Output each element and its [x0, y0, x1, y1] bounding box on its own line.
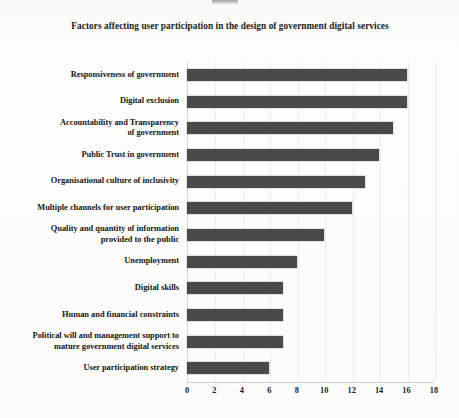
- bar-row: [187, 62, 434, 89]
- chart-title: Factors affecting user participation in …: [40, 20, 420, 32]
- y-axis-label: Unemployment: [0, 256, 179, 266]
- x-axis-tick-label: 10: [312, 386, 336, 395]
- x-axis-tick-label: 8: [285, 386, 309, 395]
- bar[interactable]: [187, 282, 283, 294]
- y-axis-label: Digital exclusion: [0, 96, 179, 106]
- bar-row: [187, 275, 434, 302]
- x-axis-tick-label: 14: [367, 386, 391, 395]
- y-axis-label: Accountability and Transparencyof govern…: [0, 118, 179, 139]
- y-axis-label: Public Trust in government: [0, 150, 179, 160]
- y-axis-label-line: Political will and management support to: [0, 331, 179, 341]
- bar[interactable]: [187, 122, 393, 134]
- bar[interactable]: [187, 202, 352, 214]
- bar[interactable]: [187, 96, 407, 108]
- bar-row: [187, 355, 434, 382]
- y-axis-label-line: provided to the public: [0, 235, 179, 245]
- y-axis-label-line: mature government digital services: [0, 342, 179, 352]
- bar-chart-figure: Factors affecting user participation in …: [0, 0, 459, 418]
- bar-row: [187, 142, 434, 169]
- bar[interactable]: [187, 362, 269, 374]
- bar-row: [187, 89, 434, 116]
- bar[interactable]: [187, 69, 407, 81]
- y-axis-label: Multiple channels for user participation: [0, 203, 179, 213]
- y-axis-label-line: of government: [0, 128, 179, 138]
- bar[interactable]: [187, 256, 297, 268]
- y-axis-label-line: User participation strategy: [0, 363, 179, 373]
- bar-row: [187, 195, 434, 222]
- y-axis-label-line: Digital exclusion: [0, 96, 179, 106]
- x-axis-tick-label: 18: [422, 386, 446, 395]
- x-axis-tick-label: 16: [395, 386, 419, 395]
- bar[interactable]: [187, 149, 379, 161]
- y-axis-label-line: Unemployment: [0, 256, 179, 266]
- y-axis-label: User participation strategy: [0, 363, 179, 373]
- x-axis-tick-label: 0: [175, 386, 199, 395]
- y-axis-label: Organisational culture of inclusivity: [0, 176, 179, 186]
- x-axis-tick-labels: 024681012141618: [187, 386, 434, 400]
- y-axis-label-line: Responsiveness of government: [0, 70, 179, 80]
- x-axis-tick-label: 6: [257, 386, 281, 395]
- x-axis-tick-label: 12: [340, 386, 364, 395]
- y-axis-label: Responsiveness of government: [0, 70, 179, 80]
- y-axis-label-line: Digital skills: [0, 283, 179, 293]
- x-axis-tick-label: 2: [202, 386, 226, 395]
- y-axis-label-line: Accountability and Transparency: [0, 118, 179, 128]
- y-axis-label: Quality and quantity of informationprovi…: [0, 224, 179, 245]
- gridline: [435, 62, 436, 382]
- y-axis-label: Digital skills: [0, 283, 179, 293]
- y-axis-label: Political will and management support to…: [0, 331, 179, 352]
- bar[interactable]: [187, 229, 324, 241]
- bar[interactable]: [187, 336, 283, 348]
- bar-row: [187, 222, 434, 249]
- x-axis-line: [187, 382, 434, 383]
- bar-row: [187, 329, 434, 356]
- y-axis-label-line: Organisational culture of inclusivity: [0, 176, 179, 186]
- bar-row: [187, 115, 434, 142]
- bar[interactable]: [187, 309, 283, 321]
- y-axis-label-line: Public Trust in government: [0, 150, 179, 160]
- y-axis-category-labels: Responsiveness of governmentDigital excl…: [0, 62, 183, 382]
- y-axis-label-line: Quality and quantity of information: [0, 224, 179, 234]
- bar-row: [187, 249, 434, 276]
- y-axis-label: Human and financial constraints: [0, 310, 179, 320]
- x-axis-tick-label: 4: [230, 386, 254, 395]
- y-axis-label-line: Human and financial constraints: [0, 310, 179, 320]
- bar-series: [187, 62, 434, 382]
- bar[interactable]: [187, 176, 365, 188]
- bar-row: [187, 169, 434, 196]
- y-axis-label-line: Multiple channels for user participation: [0, 203, 179, 213]
- bar-row: [187, 302, 434, 329]
